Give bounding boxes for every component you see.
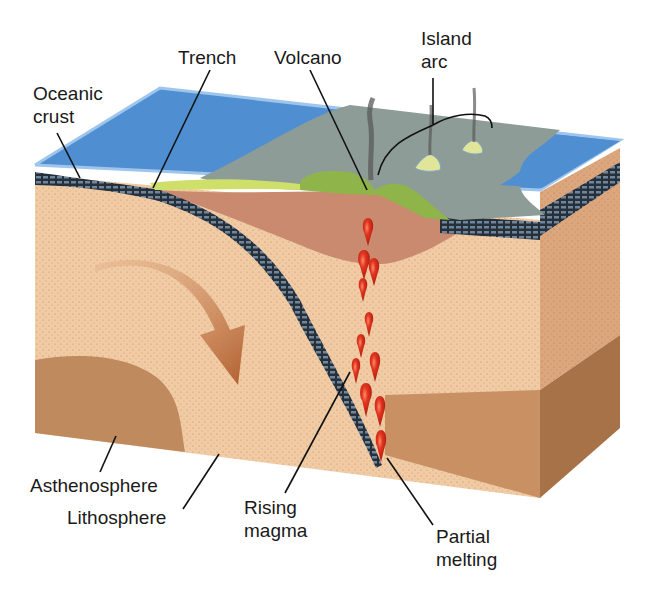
label-volcano: Volcano xyxy=(274,46,342,69)
label-asthenosphere: Asthenosphere xyxy=(30,474,158,497)
leader-lithosphere xyxy=(183,454,219,509)
label-trench: Trench xyxy=(178,46,236,69)
subduction-diagram: Oceanic crust Trench Volcano Island arc … xyxy=(0,0,649,592)
label-rising-magma: Rising magma xyxy=(244,496,307,542)
label-lithosphere: Lithosphere xyxy=(67,506,166,529)
label-island-arc: Island arc xyxy=(421,27,472,73)
label-oceanic-crust: Oceanic crust xyxy=(33,82,103,128)
island-smoke-1 xyxy=(430,105,431,155)
label-partial-melting: Partial melting xyxy=(436,525,497,571)
